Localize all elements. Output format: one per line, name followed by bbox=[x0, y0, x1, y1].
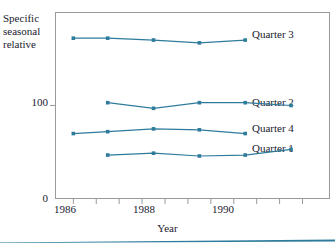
data-point-quarter-4-4 bbox=[243, 132, 247, 136]
data-point-quarter-1-0 bbox=[106, 153, 110, 157]
data-point-quarter-1-1 bbox=[152, 151, 156, 155]
data-point-quarter-3-4 bbox=[243, 38, 247, 42]
data-point-quarter-4-3 bbox=[198, 128, 202, 132]
data-point-quarter-1-3 bbox=[243, 153, 247, 157]
data-point-quarter-3-2 bbox=[152, 38, 156, 42]
data-point-quarter-3-1 bbox=[106, 36, 110, 40]
x-axis-ticks bbox=[73, 199, 302, 204]
data-point-quarter-4-0 bbox=[72, 132, 76, 136]
data-point-quarter-4-1 bbox=[106, 130, 110, 134]
series-layer bbox=[72, 36, 293, 157]
data-point-quarter-2-4 bbox=[289, 104, 293, 108]
data-point-quarter-4-2 bbox=[152, 127, 156, 131]
data-point-quarter-1-2 bbox=[198, 154, 202, 158]
data-point-quarter-1-4 bbox=[289, 148, 293, 152]
bottom-decorative-rule bbox=[0, 239, 335, 243]
series-line-quarter-3 bbox=[73, 38, 245, 43]
data-point-quarter-2-3 bbox=[243, 101, 247, 105]
chart-canvas bbox=[0, 0, 335, 248]
data-point-quarter-2-2 bbox=[198, 101, 202, 105]
chart-screenshot: Specific seasonal relative 100 0 1986 19… bbox=[0, 0, 335, 248]
series-line-quarter-4 bbox=[73, 129, 245, 134]
data-point-quarter-3-3 bbox=[198, 41, 202, 45]
data-point-quarter-2-0 bbox=[106, 101, 110, 105]
data-point-quarter-2-1 bbox=[152, 107, 156, 111]
data-point-quarter-3-0 bbox=[72, 36, 76, 40]
